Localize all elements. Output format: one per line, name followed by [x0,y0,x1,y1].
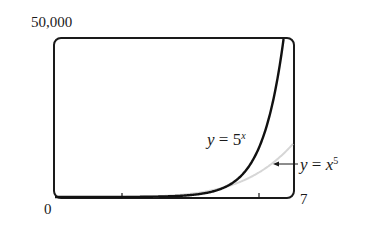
x-min-label: 0 [44,202,52,217]
chart-canvas [0,0,373,229]
label-exp: 5 [333,155,338,166]
y-max-label: 50,000 [31,15,72,30]
x-max-label: 7 [300,192,308,207]
curve-label-x5: y = x5 [300,156,338,173]
curve-y-equals-5-to-x [55,39,284,197]
curve-label-5x: y = 5x [207,131,246,148]
label-eq: = 5 [215,130,242,149]
label-var: y [207,130,215,149]
label-exp: x [241,130,245,141]
label-var: y [300,155,308,174]
label-eq: = [308,155,326,174]
